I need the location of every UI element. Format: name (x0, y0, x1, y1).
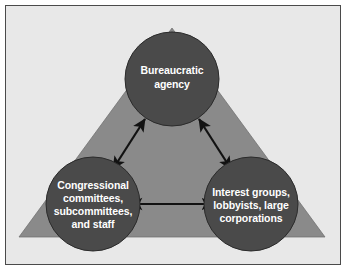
node-bureaucratic-agency-line-2: agency (154, 78, 190, 90)
node-congressional-committees[interactable]: Congressional committees, subcommittees,… (46, 157, 140, 251)
node-congressional-committees-circle (46, 157, 140, 251)
node-interest-groups-line-2: lobbyists, large (213, 199, 289, 211)
node-bureaucratic-agency-line-1: Bureaucratic (141, 64, 204, 76)
node-congressional-committees-line-1: Congressional (57, 179, 129, 191)
node-bureaucratic-agency[interactable]: Bureaucratic agency (125, 32, 219, 126)
node-interest-groups-line-1: Interest groups, (212, 186, 290, 198)
diagram-frame: Bureaucratic agency Congressional commit… (5, 5, 341, 265)
iron-triangle-diagram: Bureaucratic agency Congressional commit… (6, 6, 340, 264)
node-congressional-committees-line-3: subcommittees, (54, 205, 133, 217)
node-interest-groups-line-3: corporations (220, 212, 283, 224)
node-congressional-committees-line-4: and staff (72, 218, 115, 230)
node-congressional-committees-line-2: committees, (63, 192, 123, 204)
node-interest-groups[interactable]: Interest groups, lobbyists, large corpor… (204, 157, 298, 251)
